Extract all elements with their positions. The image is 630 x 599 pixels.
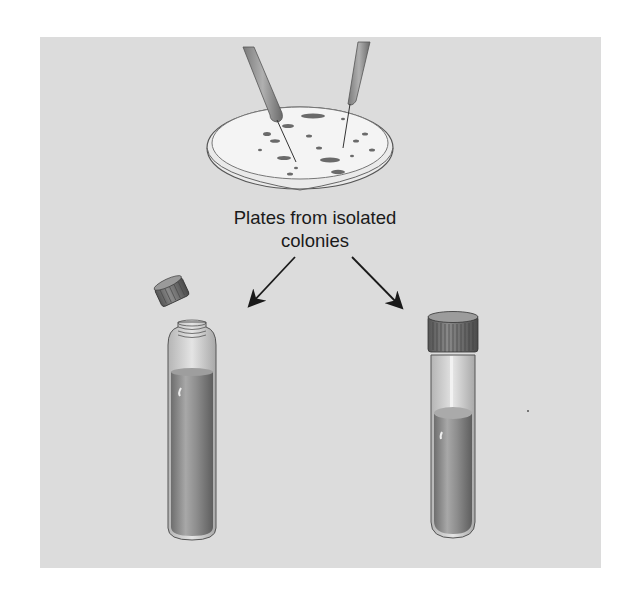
caption-line-1: Plates from isolated <box>0 206 630 229</box>
speck <box>527 410 529 412</box>
arrow-to-right-tube <box>352 257 401 307</box>
left-tube <box>168 320 216 540</box>
illustration <box>0 0 630 599</box>
right-tube <box>428 312 478 539</box>
petri-dish <box>207 107 393 190</box>
arrow-to-left-tube <box>250 257 295 305</box>
caption-line-2: colonies <box>0 229 630 252</box>
tube-cap <box>428 312 478 353</box>
caption: Plates from isolated colonies <box>0 206 630 252</box>
screw-cap <box>152 273 189 307</box>
